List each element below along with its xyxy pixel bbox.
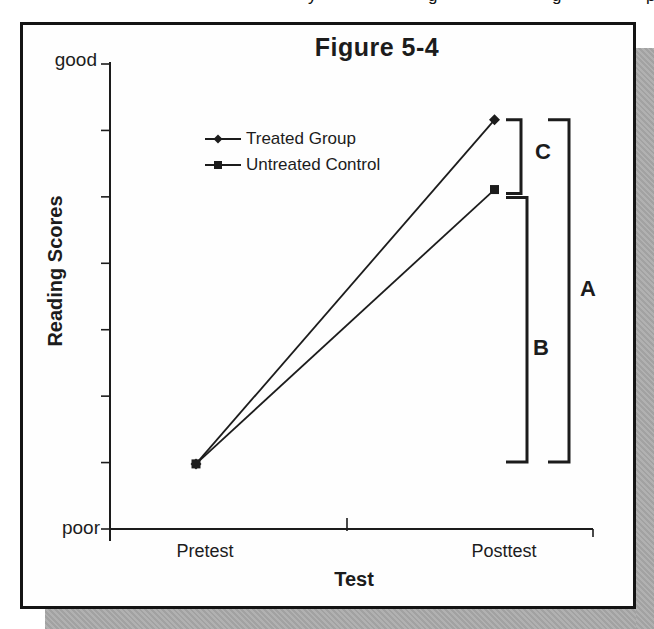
bracket-label-a: A — [576, 276, 600, 302]
bracket-b — [506, 198, 527, 462]
legend-diamond-marker-icon — [205, 132, 241, 146]
x-tick-label-pretest: Pretest — [155, 541, 255, 562]
untreated-control-square-marker — [192, 459, 201, 468]
scanned-page: yggp Figure 5-4 good poor Reading Scores… — [0, 0, 654, 629]
legend-square-marker-icon — [205, 158, 241, 172]
legend-label: Untreated Control — [246, 155, 380, 175]
x-tick-label-posttest: Posttest — [454, 541, 554, 562]
untreated-control-square-marker — [490, 185, 499, 194]
figure-title: Figure 5-4 — [277, 33, 477, 62]
legend: Treated GroupUntreated Control — [205, 126, 380, 178]
x-axis-title: Test — [304, 568, 404, 591]
y-axis-bottom-label: poor — [45, 517, 100, 539]
legend-item: Untreated Control — [205, 152, 380, 178]
bracket-label-c: C — [531, 139, 555, 165]
bracket-label-b: B — [529, 335, 553, 361]
bracket-a — [548, 120, 569, 462]
legend-item: Treated Group — [205, 126, 380, 152]
bracket-c — [506, 120, 521, 194]
y-axis-top-label: good — [40, 49, 97, 71]
y-axis-title: Reading Scores — [44, 191, 68, 351]
series-line-untreated-control — [196, 190, 495, 464]
legend-label: Treated Group — [246, 129, 356, 149]
